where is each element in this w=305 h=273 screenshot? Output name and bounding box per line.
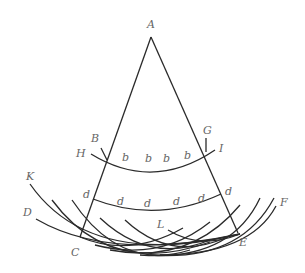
mark-d: d: [144, 197, 151, 210]
mark-b: b: [163, 152, 170, 165]
mark-d: d: [83, 188, 90, 201]
arc-K: [30, 184, 240, 245]
tick-B: [101, 148, 107, 160]
label-G: G: [203, 124, 212, 137]
mark-d: d: [173, 195, 180, 208]
diagram-canvas: A B G H I K D F L C E b b b b d d d d d …: [0, 0, 305, 273]
mark-b: b: [145, 152, 152, 165]
label-L: L: [156, 218, 164, 231]
label-D: D: [22, 206, 32, 219]
label-H: H: [75, 147, 86, 160]
label-K: K: [25, 170, 35, 183]
label-F: F: [279, 196, 288, 209]
mark-d: d: [117, 195, 124, 208]
mark-b: b: [184, 149, 191, 162]
label-A: A: [146, 18, 155, 31]
label-B: B: [90, 132, 99, 145]
label-C: C: [71, 246, 80, 259]
mark-d: d: [198, 192, 205, 205]
mark-d: d: [225, 185, 232, 198]
mark-b: b: [122, 151, 129, 164]
label-I: I: [218, 142, 224, 155]
label-E: E: [238, 236, 247, 249]
